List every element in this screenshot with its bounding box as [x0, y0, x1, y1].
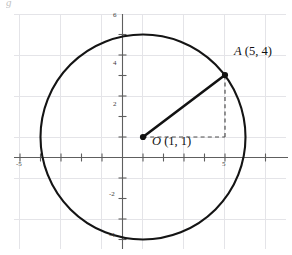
point-a-marker: [222, 72, 228, 78]
point-label-o: O (1, 1): [152, 134, 191, 149]
coordinate-plot: [0, 0, 292, 255]
figure-canvas: g: [0, 0, 292, 255]
tick-label-y-neg4: -4: [109, 231, 115, 239]
tick-label-y-2: 2: [113, 100, 117, 108]
point-label-a-name: A: [234, 44, 242, 58]
point-o-marker: [140, 134, 146, 140]
point-label-a-coords: (5, 4): [245, 44, 272, 58]
tick-label-y-neg2: -2: [109, 190, 115, 198]
point-label-o-name: O: [152, 134, 161, 148]
tick-label-y-4: 4: [113, 59, 117, 67]
point-label-o-coords: (1, 1): [164, 134, 191, 148]
tick-label-x-neg5: -5: [16, 160, 22, 168]
point-label-a: A (5, 4): [234, 44, 272, 59]
tick-label-x-5: 5: [222, 160, 226, 168]
tick-label-y-6: 6: [113, 11, 117, 19]
